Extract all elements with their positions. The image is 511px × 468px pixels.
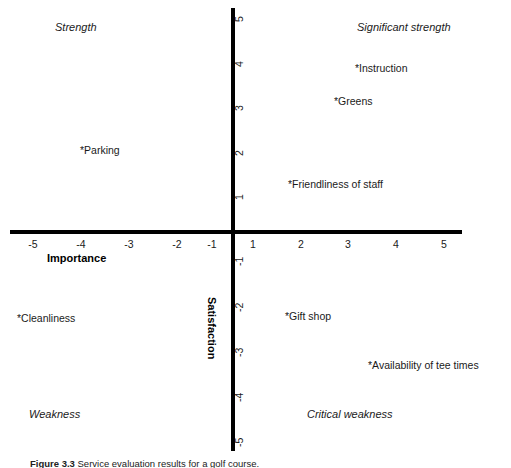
y-tick-minus-2: -2 bbox=[234, 303, 245, 312]
y-tick-plus-4: 4 bbox=[234, 61, 245, 67]
x-tick-plus-5: 5 bbox=[441, 239, 447, 250]
figure-caption-text: Service evaluation results for a golf co… bbox=[78, 458, 260, 468]
quadrant-label-weakness: Weakness bbox=[29, 408, 80, 420]
y-tick-plus-3: 3 bbox=[234, 105, 245, 111]
y-tick-minus-1: -1 bbox=[234, 257, 245, 266]
data-point-cleanliness: *Cleanliness bbox=[17, 313, 75, 324]
x-axis-line bbox=[10, 230, 462, 234]
quadrant-label-critical-weakness: Critical weakness bbox=[307, 408, 393, 420]
y-axis-line bbox=[231, 8, 235, 451]
data-point-availability-of-tee-times: *Availability of tee times bbox=[368, 360, 479, 371]
x-tick-minus-2: -2 bbox=[172, 239, 181, 250]
data-point-instruction: *Instruction bbox=[355, 63, 408, 74]
x-tick-plus-3: 3 bbox=[345, 239, 351, 250]
y-tick-plus-5: 5 bbox=[234, 16, 245, 22]
x-tick-minus-1: -1 bbox=[207, 239, 216, 250]
data-point-friendliness-of-staff: *Friendliness of staff bbox=[288, 179, 383, 190]
y-tick-minus-3: -3 bbox=[234, 348, 245, 357]
data-point-gift-shop: *Gift shop bbox=[285, 311, 331, 322]
x-tick-plus-1: 1 bbox=[250, 239, 256, 250]
x-tick-plus-2: 2 bbox=[298, 239, 304, 250]
y-tick-minus-4: -4 bbox=[234, 393, 245, 402]
data-point-parking: *Parking bbox=[80, 145, 120, 156]
quadrant-label-strength: Strength bbox=[55, 21, 97, 33]
x-tick-minus-5: -5 bbox=[28, 239, 37, 250]
data-point-greens: *Greens bbox=[334, 96, 373, 107]
y-tick-plus-1: 1 bbox=[234, 194, 245, 200]
x-tick-plus-4: 4 bbox=[393, 239, 399, 250]
x-tick-minus-3: -3 bbox=[124, 239, 133, 250]
quadrant-label-significant-strength: Significant strength bbox=[357, 21, 451, 33]
x-tick-minus-4: -4 bbox=[76, 239, 85, 250]
y-tick-plus-2: 2 bbox=[234, 150, 245, 156]
figure-container: -5 -4 -3 -2 -1 1 2 3 4 5 5 4 3 2 1 -1 -2… bbox=[0, 0, 511, 468]
y-tick-minus-5: -5 bbox=[234, 438, 245, 447]
y-axis-title: Satisfaction bbox=[206, 297, 218, 359]
figure-caption-number: Figure 3.3 bbox=[30, 458, 75, 468]
scatter-plot-area: -5 -4 -3 -2 -1 1 2 3 4 5 5 4 3 2 1 -1 -2… bbox=[0, 0, 511, 468]
figure-caption: Figure 3.3 Service evaluation results fo… bbox=[30, 458, 259, 468]
x-axis-title: Importance bbox=[47, 252, 106, 264]
